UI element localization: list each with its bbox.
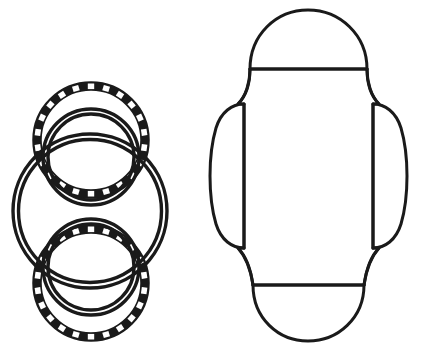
line-art-drawing xyxy=(0,0,425,352)
illustration-canvas xyxy=(0,0,425,352)
